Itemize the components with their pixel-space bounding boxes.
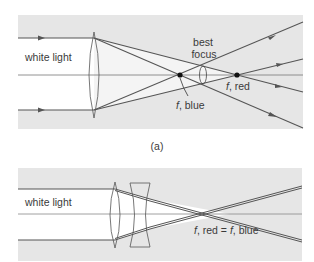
panel-a: white light best focus f, blue f, red xyxy=(18,15,303,129)
focus-red-label: f, red xyxy=(226,80,250,92)
panel-a-caption: (a) xyxy=(151,140,164,152)
white-light-label-a: white light xyxy=(24,51,72,63)
best-focus-label-line1: best xyxy=(193,36,213,48)
panel-b: white light f, red = f, blue xyxy=(18,168,302,261)
white-light-label-b: white light xyxy=(24,196,72,208)
combined-focus-label: f, red = f, blue xyxy=(194,224,259,236)
chromatic-aberration-diagram: white light best focus f, blue f, red (a… xyxy=(0,0,314,262)
focus-blue-label: f, blue xyxy=(176,99,205,111)
best-focus-label-line2: focus xyxy=(191,48,216,60)
focal-point-blue xyxy=(177,72,182,77)
focal-point-red xyxy=(234,72,239,77)
